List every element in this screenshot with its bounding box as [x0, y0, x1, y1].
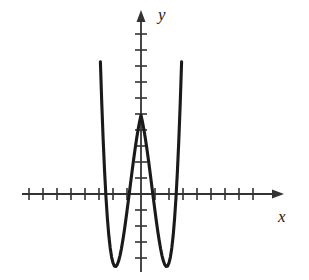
figure-background	[0, 0, 309, 280]
function-graph-figure: y x	[0, 0, 309, 280]
x-axis-label: x	[277, 207, 286, 226]
y-axis-label: y	[156, 5, 166, 24]
